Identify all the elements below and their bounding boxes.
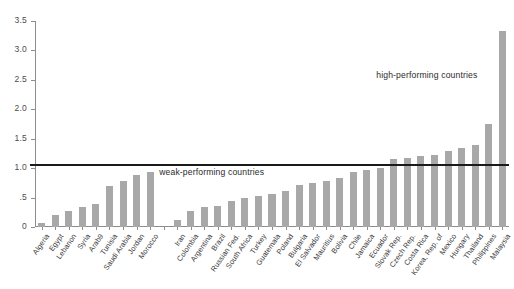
x-axis-tick-mark <box>177 227 178 230</box>
x-axis-tick-mark <box>164 227 165 230</box>
bar <box>282 191 289 227</box>
x-axis-tick-mark <box>69 227 70 230</box>
x-axis-tick-mark <box>353 227 354 230</box>
x-axis-tick-mark <box>380 227 381 230</box>
bar <box>445 151 452 228</box>
x-axis-tick-mark <box>475 227 476 230</box>
y-axis-tick-label: 3.5 <box>15 15 27 25</box>
bar <box>65 211 72 227</box>
x-axis-tick-mark <box>435 227 436 230</box>
x-axis-tick-mark <box>407 227 408 230</box>
bar <box>228 201 235 227</box>
x-axis-tick-mark <box>394 227 395 230</box>
y-axis-tick-label: 1.0 <box>15 162 27 172</box>
x-axis-tick-mark <box>286 227 287 230</box>
x-axis-tick-mark <box>326 227 327 230</box>
x-axis-tick-mark <box>448 227 449 230</box>
x-axis-tick-mark <box>258 227 259 230</box>
chart-figure: 0.51.01.52.02.53.03.5 AlgeriaEgyptLebano… <box>0 0 514 289</box>
x-axis-tick-mark <box>82 227 83 230</box>
x-axis-tick-mark <box>502 227 503 230</box>
bar <box>106 186 113 227</box>
bar <box>268 194 275 227</box>
bar <box>255 196 262 227</box>
x-axis-tick-mark <box>272 227 273 230</box>
x-axis-tick-mark <box>123 227 124 230</box>
x-axis-tick-mark <box>191 227 192 230</box>
bar <box>350 172 357 227</box>
y-axis-tick-label: .5 <box>20 192 28 202</box>
bar <box>52 215 59 227</box>
x-axis-tick-mark <box>218 227 219 230</box>
bar <box>377 168 384 227</box>
x-axis-tick-mark <box>150 227 151 230</box>
bar <box>417 156 424 227</box>
x-axis-tick-mark <box>231 227 232 230</box>
bar <box>323 181 330 227</box>
bar <box>201 207 208 227</box>
bar <box>336 178 343 227</box>
bar <box>485 124 492 227</box>
bar <box>499 31 506 227</box>
bar <box>147 172 154 227</box>
bar <box>133 175 140 227</box>
x-axis-tick-mark <box>313 227 314 230</box>
bar <box>79 207 86 227</box>
y-axis-tick-label: 2.0 <box>15 103 27 113</box>
y-axis-tick-label: 0 <box>22 221 27 231</box>
bar <box>174 220 181 227</box>
plot-area <box>35 21 509 227</box>
y-axis-tick-label: 3.0 <box>15 44 27 54</box>
x-axis-tick-mark <box>204 227 205 230</box>
x-axis-tick-mark <box>55 227 56 230</box>
x-axis-tick-mark <box>367 227 368 230</box>
y-axis-tick-label: 2.5 <box>15 74 27 84</box>
bar <box>404 158 411 227</box>
x-axis-tick-mark <box>299 227 300 230</box>
bar <box>390 159 397 227</box>
bar <box>187 211 194 227</box>
y-axis-tick-mark <box>31 227 35 228</box>
y-axis-tick-label: 1.5 <box>15 133 27 143</box>
bar <box>214 206 221 227</box>
x-axis-tick-mark <box>137 227 138 230</box>
bar <box>120 181 127 227</box>
bar <box>472 145 479 227</box>
chart-annotation: high-performing countries <box>376 70 477 80</box>
x-axis-tick-mark <box>109 227 110 230</box>
x-axis-tick-mark <box>462 227 463 230</box>
x-axis-tick-mark <box>421 227 422 230</box>
bar <box>92 204 99 227</box>
reference-line <box>30 164 509 166</box>
x-axis-tick-mark <box>489 227 490 230</box>
bar <box>296 185 303 227</box>
x-axis-tick-mark <box>245 227 246 230</box>
x-axis-tick-mark <box>42 227 43 230</box>
bar <box>363 170 370 227</box>
bar <box>309 183 316 227</box>
x-axis-tick-mark <box>340 227 341 230</box>
chart-annotation: weak-performing countries <box>159 167 264 177</box>
bar <box>458 148 465 227</box>
bar <box>241 198 248 227</box>
x-axis-tick-mark <box>96 227 97 230</box>
